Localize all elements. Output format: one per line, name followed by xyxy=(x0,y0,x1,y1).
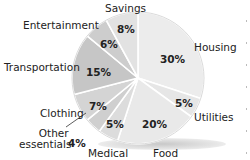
pct-clothing: 7% xyxy=(89,100,107,112)
pct-medical: 5% xyxy=(106,118,124,130)
label-housing: Housing xyxy=(194,42,237,53)
label-medical: Medical xyxy=(88,148,128,159)
label-savings: Savings xyxy=(105,3,146,14)
pct-entertainment: 6% xyxy=(100,38,118,50)
pct-savings: 8% xyxy=(117,23,135,35)
label-utilities: Utilities xyxy=(194,112,234,123)
pct-transportation: 15% xyxy=(86,66,111,78)
pct-food: 20% xyxy=(142,118,167,130)
label-other-line2: essentials xyxy=(19,139,71,150)
pct-housing: 30% xyxy=(160,53,185,65)
label-clothing: Clothing xyxy=(40,108,84,119)
label-food: Food xyxy=(153,148,178,159)
page-edge xyxy=(246,0,247,160)
label-other-essentials: Other essentials xyxy=(36,128,71,150)
label-entertainment: Entertainment xyxy=(23,20,99,31)
label-transportation: Transportation xyxy=(4,62,80,73)
pie-slices xyxy=(72,12,204,144)
pct-utilities: 5% xyxy=(175,97,193,109)
pct-other: 4% xyxy=(68,137,86,149)
